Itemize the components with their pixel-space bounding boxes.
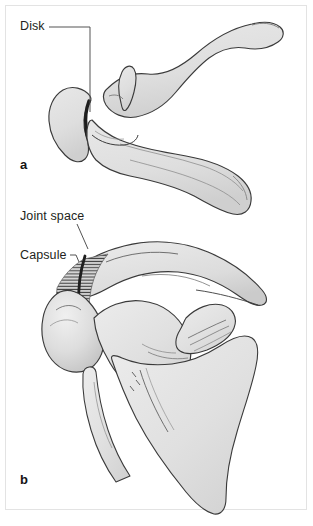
label-joint-space: Joint space — [20, 210, 84, 223]
joint-space-leader-line — [77, 224, 88, 249]
label-disk: Disk — [20, 20, 45, 33]
capsule-leader-line — [70, 255, 79, 262]
acromion-b — [42, 290, 104, 372]
scapular-spine-a — [87, 120, 251, 214]
scapula-body-b — [112, 336, 258, 514]
panel-a-artwork — [49, 22, 283, 214]
panel-letter-a: a — [20, 157, 27, 172]
panel-b-artwork — [42, 224, 267, 514]
anatomy-illustration — [0, 0, 313, 526]
panel-letter-b: b — [20, 472, 28, 487]
figure-container: Disk Joint space Capsule a b — [0, 0, 313, 526]
label-capsule: Capsule — [20, 249, 67, 262]
